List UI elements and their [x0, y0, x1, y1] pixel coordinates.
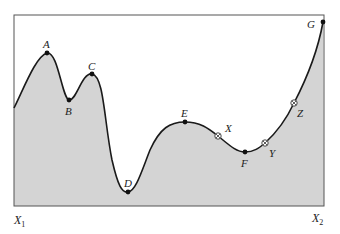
solid-dot-icon: [90, 72, 95, 77]
solid-dot-icon: [321, 20, 326, 25]
point-label-g: G: [307, 18, 315, 30]
circled-cross-icon: [291, 100, 297, 106]
solid-dot-icon: [183, 120, 188, 125]
point-label-f: F: [240, 157, 248, 169]
landscape-diagram: A B C D E F G: [0, 0, 340, 234]
point-label-a: A: [42, 38, 50, 50]
point-label-z: Z: [297, 107, 304, 119]
point-label-d: D: [123, 177, 132, 189]
point-x: X: [215, 122, 233, 139]
circled-cross-icon: [262, 140, 268, 146]
axis-label-x1: X1: [13, 213, 25, 229]
point-a: A: [42, 38, 50, 55]
solid-dot-icon: [126, 190, 131, 195]
solid-dot-icon: [243, 150, 248, 155]
point-label-b: B: [65, 105, 72, 117]
point-label-x: X: [224, 122, 233, 134]
solid-dot-icon: [67, 98, 72, 103]
point-label-e: E: [180, 107, 188, 119]
diagram-canvas: A B C D E F G: [0, 0, 340, 234]
solid-dot-icon: [45, 51, 50, 56]
axis-label-x2: X2: [311, 211, 323, 227]
circled-cross-icon: [215, 133, 221, 139]
shaded-region: [14, 22, 324, 206]
point-label-c: C: [88, 60, 96, 72]
